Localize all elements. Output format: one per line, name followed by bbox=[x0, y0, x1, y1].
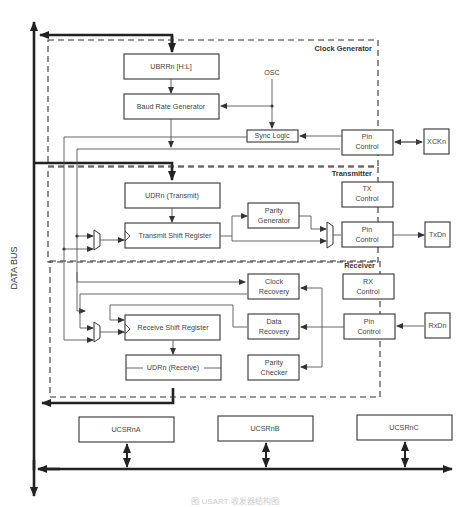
svg-text:RxDn: RxDn bbox=[429, 321, 447, 330]
clock-generator-title: Clock Generator bbox=[314, 44, 372, 53]
svg-text:UCSRnB: UCSRnB bbox=[250, 424, 279, 433]
baud-rate-generator-block: Baud Rate Generator bbox=[124, 94, 219, 119]
svg-text:Parity: Parity bbox=[265, 206, 284, 215]
xck-pin: XCKn bbox=[424, 129, 449, 154]
svg-text:Recovery: Recovery bbox=[259, 327, 290, 336]
svg-text:Pin: Pin bbox=[364, 317, 374, 326]
svg-text:Generator: Generator bbox=[258, 216, 291, 225]
tx-pin-control-block: Pin Control bbox=[342, 222, 393, 247]
svg-text:XCKn: XCKn bbox=[427, 137, 446, 146]
svg-text:Data: Data bbox=[266, 317, 281, 326]
svg-text:Control: Control bbox=[356, 287, 380, 296]
svg-text:Control: Control bbox=[357, 327, 381, 336]
svg-text:Receive Shift Register: Receive Shift Register bbox=[137, 323, 209, 332]
ubrr-block: UBRRn [H:L] bbox=[124, 54, 219, 79]
svg-text:TxDn: TxDn bbox=[429, 230, 446, 239]
svg-text:Parity: Parity bbox=[265, 358, 284, 367]
svg-text:Checker: Checker bbox=[261, 368, 288, 377]
rx-pin-control-block: Pin Control bbox=[344, 314, 395, 339]
tx-control-block: TX Control bbox=[342, 182, 393, 207]
udr-transmit-block: UDRn (Transmit) bbox=[125, 183, 220, 208]
svg-text:RX: RX bbox=[363, 277, 373, 286]
transmitter-title: Transmitter bbox=[332, 169, 372, 178]
rx-control-block: RX Control bbox=[343, 274, 394, 299]
svg-text:Control: Control bbox=[355, 235, 379, 244]
clock-pin-control-block: Pin Control bbox=[342, 130, 393, 155]
osc-label: OSC bbox=[264, 68, 280, 77]
ucsra-register: UCSRnA bbox=[79, 417, 174, 442]
svg-text:Clock: Clock bbox=[265, 277, 283, 286]
receiver-title: Receiver bbox=[344, 261, 375, 270]
txd-pin: TxDn bbox=[425, 222, 450, 247]
svg-text:Recovery: Recovery bbox=[259, 287, 290, 296]
data-bus-label: DATA BUS bbox=[9, 246, 19, 289]
receive-shift-register-block: Receive Shift Register bbox=[125, 315, 220, 340]
parity-generator-block: Parity Generator bbox=[248, 203, 299, 228]
svg-text:Transmit Shift Register: Transmit Shift Register bbox=[139, 231, 212, 240]
register-bus-links bbox=[127, 442, 405, 467]
ucsrc-register: UCSRnC bbox=[357, 415, 452, 440]
svg-text:Control: Control bbox=[355, 194, 379, 203]
sync-logic-block: Sync Logic bbox=[247, 130, 298, 142]
svg-text:UCSRnC: UCSRnC bbox=[389, 423, 419, 432]
parity-checker-block: Parity Checker bbox=[248, 355, 299, 380]
ucsrb-register: UCSRnB bbox=[218, 416, 313, 441]
udr-receive-block: UDRn (Receive) bbox=[126, 355, 221, 380]
svg-text:Pin: Pin bbox=[362, 132, 372, 141]
clock-recovery-block: Clock Recovery bbox=[248, 274, 299, 299]
usart-block-diagram: DATA BUS Clock Generator Transmitter Rec… bbox=[0, 0, 471, 507]
svg-text:Control: Control bbox=[355, 142, 379, 151]
figure-caption: 图 USART 收发器结构图 bbox=[191, 496, 278, 506]
svg-text:Pin: Pin bbox=[362, 225, 372, 234]
svg-text:UCSRnA: UCSRnA bbox=[111, 425, 140, 434]
data-recovery-block: Data Recovery bbox=[248, 314, 299, 339]
svg-text:UDRn (Receive): UDRn (Receive) bbox=[147, 363, 199, 372]
svg-text:TX: TX bbox=[362, 184, 371, 193]
svg-text:Sync Logic: Sync Logic bbox=[254, 131, 290, 140]
svg-text:UBRRn [H:L]: UBRRn [H:L] bbox=[150, 62, 192, 71]
svg-text:UDRn (Transmit): UDRn (Transmit) bbox=[145, 191, 199, 200]
rxd-pin: RxDn bbox=[425, 313, 450, 338]
svg-text:Baud Rate Generator: Baud Rate Generator bbox=[137, 102, 206, 111]
transmit-shift-register-block: Transmit Shift Register bbox=[125, 223, 220, 248]
